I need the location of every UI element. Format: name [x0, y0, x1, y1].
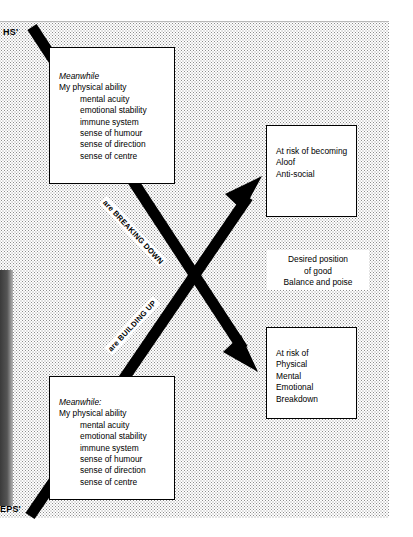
box-bottom-left-item: immune system [59, 443, 174, 454]
box-bottom-left-item: emotional stability [59, 431, 174, 442]
box-top-left-item: sense of direction [59, 139, 174, 150]
box-bottom-right: At risk of Physical Mental Emotional Bre… [266, 327, 357, 419]
centre-line-3: Balance and poise [267, 277, 369, 289]
corner-label-bottom-left: EPS' [0, 504, 21, 514]
box-top-right-item: Anti-social [276, 169, 356, 180]
box-top-left-lead: My physical ability [59, 82, 174, 93]
diagram-page: HS' EPS' are BREAKING DOWN are BUILDING … [0, 0, 413, 537]
box-top-left-item: emotional stability [59, 105, 174, 116]
box-top-right-content: At risk of becoming Aloof Anti-social [267, 126, 356, 180]
corner-label-top-left: HS' [3, 27, 18, 37]
box-top-left-item: mental acuity [59, 94, 174, 105]
box-bottom-right-item: Breakdown [276, 394, 356, 405]
centre-line-1: Desired position [267, 254, 369, 266]
box-centre-desired-position: Desired position of good Balance and poi… [267, 250, 369, 290]
box-bottom-right-item: Physical [276, 359, 356, 370]
box-top-left-item: sense of centre [59, 151, 174, 162]
box-bottom-right-item: Mental [276, 371, 356, 382]
box-top-left-item: sense of humour [59, 128, 174, 139]
box-bottom-left-item: sense of direction [59, 465, 174, 476]
box-top-left-item: immune system [59, 117, 174, 128]
box-bottom-right-lead: At risk of [276, 348, 356, 359]
box-top-right-lead: At risk of becoming [276, 146, 356, 157]
box-top-left: Meanwhile My physical ability mental acu… [49, 47, 175, 184]
box-bottom-left-content: Meanwhile: My physical ability mental ac… [50, 377, 174, 488]
box-top-left-heading: Meanwhile [59, 71, 174, 82]
box-bottom-left-lead: My physical ability [59, 408, 174, 419]
box-bottom-right-item: Emotional [276, 382, 356, 393]
box-top-right: At risk of becoming Aloof Anti-social [266, 125, 357, 217]
box-top-left-content: Meanwhile My physical ability mental acu… [50, 48, 174, 162]
box-top-right-item: Aloof [276, 157, 356, 168]
box-bottom-left-item: sense of centre [59, 477, 174, 488]
box-bottom-left-item: sense of humour [59, 454, 174, 465]
box-bottom-left-heading: Meanwhile: [59, 397, 174, 408]
box-bottom-left-item: mental acuity [59, 420, 174, 431]
box-bottom-left: Meanwhile: My physical ability mental ac… [49, 376, 175, 500]
centre-line-2: of good [267, 266, 369, 278]
box-bottom-right-content: At risk of Physical Mental Emotional Bre… [267, 328, 356, 405]
